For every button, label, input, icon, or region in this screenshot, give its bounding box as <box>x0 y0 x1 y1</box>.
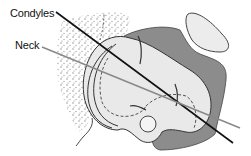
patella-shape <box>186 13 229 52</box>
anatomy-figure: Condyles Neck <box>0 0 251 156</box>
label-neck: Neck <box>15 40 39 51</box>
label-condyles: Condyles <box>10 8 54 19</box>
femur-diagram <box>0 0 251 156</box>
tubercle-circle <box>140 116 156 132</box>
